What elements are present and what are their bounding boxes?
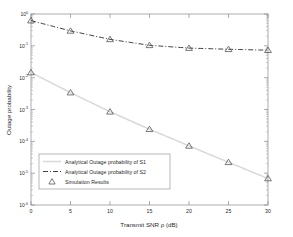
x-axis-title: Transmit SNR ρ (dB) [120,221,177,228]
legend-label-simulation: Simulation Results [65,179,109,185]
legend-label-s2: Analytical Outage probability of S2 [65,169,146,175]
x-tick-label: 25 [226,208,232,214]
x-tick-label: 15 [147,208,153,214]
legend[interactable]: Analytical Outage probability of S1 Anal… [39,154,170,189]
figure-container: 10010-110-210-310-410-510-6 051015202530… [0,0,293,237]
x-tick-label: 20 [186,208,192,214]
outage-probability-chart: 10010-110-210-310-410-510-6 051015202530… [0,0,293,237]
x-tick-label: 0 [30,208,33,214]
x-tick-label: 5 [69,208,72,214]
x-tick-label: 10 [107,208,113,214]
chart-background [0,0,293,237]
x-tick-label: 30 [265,208,271,214]
y-axis-title: Outage probability [5,84,12,135]
legend-label-s1: Analytical Outage probability of S1 [65,159,146,165]
